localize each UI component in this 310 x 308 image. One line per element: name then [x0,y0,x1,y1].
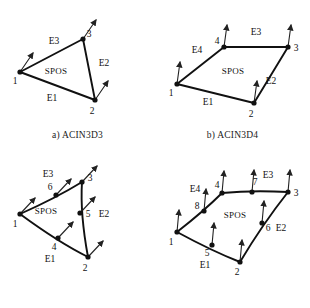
node-dot-8 [201,208,206,213]
node-dot-2 [251,100,256,105]
edge-label-e1: E1 [47,93,58,103]
node-dot-1 [17,69,22,74]
node-label-4: 4 [215,180,220,190]
panel-acin3d4: 1 4 3 2 E1 E2 E3 E4 SPOS b) ACIN3D4 [155,0,310,154]
node-label-8: 8 [195,201,200,211]
node-label-1: 1 [169,237,174,247]
panel-acin3d6: 1 6 3 5 4 2 E1 E2 E3 SPOS c) ACIN3D6 [0,154,155,308]
node-dot-1 [17,211,22,216]
normal-arrow-node-3 [288,25,291,47]
normal-arrow-node-4 [224,25,227,47]
normal-arrow-node-5 [212,223,214,245]
surface-label-spos: SPOS [222,66,245,76]
node-label-1: 1 [169,88,174,98]
node-label-1: 1 [13,219,18,229]
node-dot-7 [249,189,254,194]
normal-arrow-node-6 [262,201,264,223]
node-dots [174,189,290,264]
node-dot-3 [285,189,290,194]
figure-canvas: 1 3 2 E1 E2 E3 SPOS a) ACIN3D3 [0,0,310,308]
diagram-acin3d8: 1 8 4 7 3 6 2 5 E1 E2 E3 E4 SPOS [155,154,310,308]
surface-label-spos: SPOS [45,66,68,76]
edge-e1 [177,84,254,103]
node-dot-4 [219,190,224,195]
node-label-6: 6 [48,182,53,192]
node-label-7: 7 [253,177,258,187]
node-dot-5 [77,210,82,215]
edge-label-e2: E2 [99,209,110,219]
node-labels: 1 4 3 2 [169,36,299,119]
node-label-2: 2 [83,263,88,273]
node-label-2: 2 [235,267,240,277]
edge-e4 [177,193,222,232]
edge-label-e2: E2 [99,58,110,68]
node-label-5: 5 [205,248,210,258]
panel-caption-acin3d3: a) ACIN3D3 [0,130,155,140]
normal-arrows [177,25,291,103]
edge-e2 [83,39,95,100]
node-dot-2 [237,259,242,264]
edge-e3 [222,191,288,193]
edge-label-e3: E3 [251,27,262,37]
node-label-5: 5 [86,209,91,219]
node-dot-5 [209,242,214,247]
panel-acin3d8: 1 8 4 7 3 6 2 5 E1 E2 E3 E4 SPOS d) ACIN… [155,154,310,308]
edge-label-e2: E2 [266,76,277,86]
diagram-acin3d6: 1 6 3 5 4 2 E1 E2 E3 SPOS [0,154,155,308]
edge-label-e3: E3 [263,170,274,180]
node-label-3: 3 [88,173,93,183]
edge-label-e4: E4 [192,45,203,55]
edge-label-e1: E1 [200,260,211,270]
edge-label-e4: E4 [190,184,201,194]
panel-caption-acin3d4: b) ACIN3D4 [155,130,310,140]
node-label-2: 2 [90,106,95,116]
node-label-3: 3 [87,29,92,39]
edge-label-e3: E3 [43,169,54,179]
edge-label-e3: E3 [49,36,60,46]
surface-label-spos: SPOS [35,206,58,216]
node-label-3: 3 [294,188,299,198]
panel-acin3d3: 1 3 2 E1 E2 E3 SPOS a) ACIN3D3 [0,0,155,154]
node-dot-2 [85,254,90,259]
normal-arrow-node-1 [177,62,180,84]
edge-e1 [20,72,95,100]
normal-arrow-node-3 [288,170,290,192]
edge-e2 [254,47,288,103]
normal-arrow-node-2 [95,81,108,100]
normal-arrow-node-2 [88,241,103,257]
normal-arrow-node-1 [177,210,179,232]
node-label-2: 2 [249,109,254,119]
node-dot-1 [174,229,179,234]
node-dot-3 [285,44,290,49]
node-label-3: 3 [294,43,299,53]
node-dot-2 [92,97,97,102]
node-label-4: 4 [52,242,57,252]
node-dot-4 [221,44,226,49]
surface-label-spos: SPOS [224,210,247,220]
node-dot-4 [55,235,60,240]
edge-label-e2: E2 [276,223,287,233]
edge-label-e1: E1 [203,97,214,107]
node-dot-6 [259,220,264,225]
node-dot-3 [80,36,85,41]
normal-arrow-node-4 [58,222,73,238]
normal-arrow-node-4 [222,171,224,193]
edge-label-e1: E1 [45,254,56,264]
edge-e2 [82,182,88,257]
node-dot-1 [174,81,179,86]
node-label-1: 1 [13,76,18,86]
node-label-6: 6 [266,223,271,233]
node-dot-3 [79,179,84,184]
node-label-4: 4 [215,36,220,46]
node-dot-6 [53,192,58,197]
